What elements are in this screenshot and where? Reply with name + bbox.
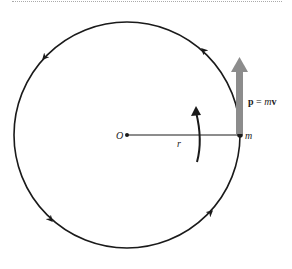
- origin-label: O: [116, 130, 123, 141]
- origin-point: [125, 133, 129, 137]
- circular-motion-diagram: O r m p = mv: [0, 0, 292, 269]
- mass-label: m: [245, 130, 252, 141]
- rotation-arrowhead-icon: [191, 106, 201, 116]
- radius-label: r: [177, 138, 181, 149]
- momentum-mass: m: [264, 96, 271, 107]
- momentum-equals: =: [254, 96, 265, 107]
- momentum-velocity: v: [271, 96, 276, 107]
- momentum-label: p = mv: [248, 96, 276, 107]
- rotation-arrow: [196, 112, 200, 162]
- direction-arrow-top-right: [203, 50, 211, 58]
